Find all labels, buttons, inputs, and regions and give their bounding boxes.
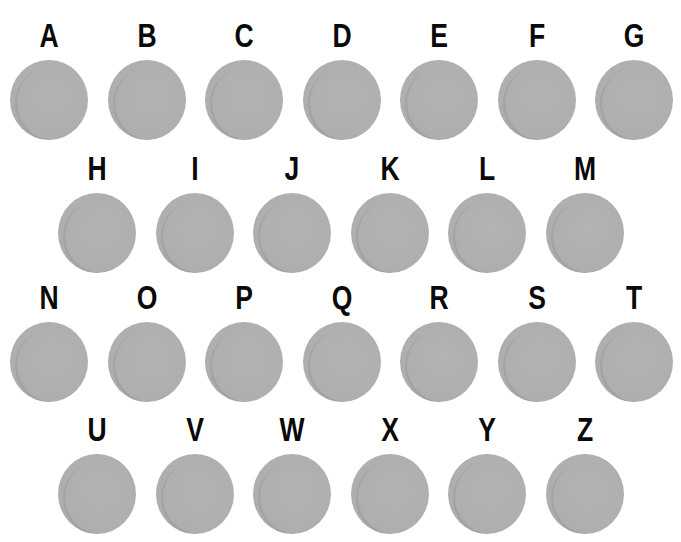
gray-disc [156,454,234,534]
gray-disc [108,322,186,402]
disc-label: N [19,280,80,314]
gray-disc [546,454,624,534]
gray-disc [58,193,136,273]
gray-disc [205,60,283,140]
disc-label: K [359,151,420,185]
disc-label: D [311,18,372,52]
gray-disc [351,454,429,534]
disc-label: F [506,18,567,52]
disc-label: B [116,18,177,52]
disc-label: Z [554,412,615,446]
gray-disc [595,322,673,402]
gray-disc [10,322,88,402]
gray-disc [498,322,576,402]
disc-label: M [554,151,615,185]
disc-label: I [164,151,225,185]
disc-label: Q [311,280,372,314]
disc-label: L [457,151,518,185]
gray-disc [205,322,283,402]
disc-label: U [67,412,128,446]
disc-label: O [116,280,177,314]
disc-label: C [214,18,275,52]
gray-disc [400,60,478,140]
gray-disc [448,454,526,534]
disc-label: X [359,412,420,446]
disc-label: T [604,280,665,314]
gray-disc [156,193,234,273]
alphabet-disc-grid: ABCDEFGHIJKLMNOPQRSTUVWXYZ [0,0,681,542]
gray-disc [595,60,673,140]
disc-label: P [214,280,275,314]
disc-label: V [164,412,225,446]
disc-label: G [604,18,665,52]
gray-disc [253,454,331,534]
disc-label: J [262,151,323,185]
gray-disc [303,322,381,402]
disc-label: R [409,280,470,314]
gray-disc [546,193,624,273]
disc-label: A [19,18,80,52]
disc-label: W [262,412,323,446]
gray-disc [108,60,186,140]
disc-label: H [67,151,128,185]
gray-disc [400,322,478,402]
gray-disc [448,193,526,273]
gray-disc [58,454,136,534]
gray-disc [303,60,381,140]
gray-disc [253,193,331,273]
gray-disc [498,60,576,140]
gray-disc [351,193,429,273]
disc-label: Y [457,412,518,446]
gray-disc [10,60,88,140]
disc-label: E [409,18,470,52]
disc-label: S [506,280,567,314]
